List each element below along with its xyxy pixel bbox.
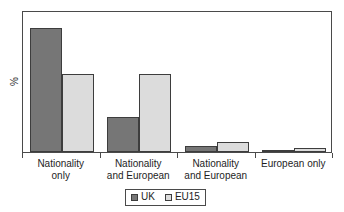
chart-legend: UK EU15 bbox=[125, 189, 206, 206]
legend-entry-eu15[interactable]: EU15 bbox=[165, 191, 200, 203]
legend-label-eu15: EU15 bbox=[175, 191, 200, 203]
bar-uk-cat2 bbox=[107, 117, 139, 153]
bar-eu15-cat3 bbox=[217, 142, 249, 152]
category-label-4-line1: European only bbox=[255, 158, 333, 170]
category-label-2-line1: Nationality bbox=[100, 158, 178, 170]
bar-eu15-cat2 bbox=[139, 74, 171, 152]
eu15-swatch-icon bbox=[165, 194, 172, 201]
category-label-4: European only bbox=[255, 158, 333, 170]
bar-uk-cat4 bbox=[262, 150, 294, 152]
y-axis-label: % bbox=[9, 77, 20, 86]
legend-label-uk: UK bbox=[141, 191, 155, 203]
category-label-1-line2: only bbox=[22, 170, 100, 182]
category-label-1: Nationalityonly bbox=[22, 158, 100, 181]
bars-layer bbox=[23, 12, 331, 152]
category-label-2-line2: and European bbox=[100, 170, 178, 182]
category-label-2: Nationalityand European bbox=[100, 158, 178, 181]
category-label-3: Nationalityand European bbox=[177, 158, 255, 181]
bar-eu15-cat1 bbox=[62, 74, 94, 152]
bar-uk-cat3 bbox=[185, 146, 217, 152]
category-label-3-line1: Nationality bbox=[177, 158, 255, 170]
y-axis-label-wrapper: % bbox=[6, 58, 22, 104]
plot-area bbox=[22, 11, 332, 153]
category-tick-end bbox=[332, 153, 333, 158]
legend-entry-uk[interactable]: UK bbox=[131, 191, 155, 203]
category-label-3-line2: and European bbox=[177, 170, 255, 182]
bar-eu15-cat4 bbox=[294, 148, 326, 152]
category-label-1-line1: Nationality bbox=[22, 158, 100, 170]
bar-chart-figure: % NationalityonlyNationalityand European… bbox=[0, 0, 344, 212]
bar-uk-cat1 bbox=[30, 28, 62, 152]
uk-swatch-icon bbox=[131, 194, 138, 201]
